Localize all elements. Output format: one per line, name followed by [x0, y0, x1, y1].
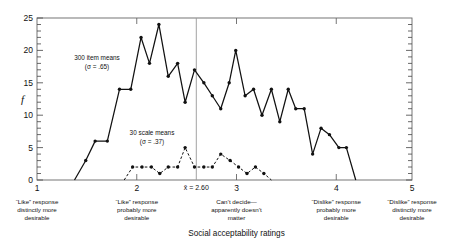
data-point — [84, 159, 87, 162]
series2-annotation-line1: 30 scale means — [130, 129, 175, 136]
series1-annotation-line2: (σ = .65) — [85, 63, 109, 71]
y-axis-label: f — [21, 93, 26, 105]
data-point — [227, 81, 230, 84]
data-point — [167, 165, 170, 168]
data-point — [158, 172, 161, 175]
data-point — [219, 152, 222, 155]
data-point — [139, 36, 142, 39]
cat-label-3-line3: matter — [228, 214, 246, 221]
data-point — [176, 165, 179, 168]
series2-annotation-line2: (σ = .37) — [140, 138, 164, 146]
cat-label-3-line1: Can’t decide— — [216, 198, 257, 205]
cat-label-1-line2: distinctly more — [17, 206, 57, 213]
data-point — [260, 114, 263, 117]
ytick-label-15: 15 — [24, 78, 34, 88]
data-point — [193, 68, 196, 71]
data-point — [150, 165, 153, 168]
cat-label-1-line3: desirable — [24, 214, 50, 221]
data-point — [302, 107, 305, 110]
data-point — [262, 172, 265, 175]
data-point — [211, 94, 214, 97]
data-point — [228, 159, 231, 162]
cat-label-1-line1: “Like” response — [16, 198, 59, 205]
data-point — [319, 126, 322, 129]
data-point — [131, 165, 134, 168]
data-point — [243, 94, 246, 97]
data-point — [234, 49, 237, 52]
cat-label-2-line3: desirable — [124, 214, 150, 221]
xtick-label-5: 5 — [410, 183, 415, 193]
cat-label-2-line1: “Like” response — [115, 198, 158, 205]
cat-label-2-line2: probably more — [117, 206, 157, 213]
cat-label-4-line1: “Dislike” response — [311, 198, 361, 205]
data-point — [270, 88, 273, 91]
xtick-label-3: 3 — [234, 183, 239, 193]
x-axis-title: Social acceptability ratings — [188, 229, 284, 238]
xtick-label-2: 2 — [134, 183, 139, 193]
ytick-label-20: 20 — [24, 45, 34, 55]
data-point — [106, 139, 109, 142]
ytick-label-25: 25 — [24, 13, 34, 23]
cat-label-3-line2: apparently doesn’t — [211, 206, 262, 213]
cat-label-5-line2: distinctly more — [392, 206, 432, 213]
ytick-label-10: 10 — [24, 110, 34, 120]
ytick-label-0: 0 — [28, 175, 33, 185]
data-point — [254, 165, 257, 168]
data-point — [118, 88, 121, 91]
chart-figure: 0 5 10 15 20 25 f 1 2 3 4 5 x̄ = 2.60 30… — [0, 0, 469, 240]
series1-annotation-line1: 300 item means — [74, 54, 119, 61]
data-point — [202, 165, 205, 168]
data-point — [219, 107, 222, 110]
x-category-labels: “Like” response distinctly more desirabl… — [16, 198, 438, 221]
data-point — [93, 139, 96, 142]
cat-label-4-line2: probably more — [316, 206, 356, 213]
data-point — [148, 62, 151, 65]
data-point — [287, 88, 290, 91]
data-point — [167, 75, 170, 78]
cat-label-5-line1: “Dislike” response — [387, 198, 437, 205]
data-point — [157, 23, 160, 26]
data-point — [176, 62, 179, 65]
cat-label-4-line3: desirable — [324, 214, 350, 221]
data-point — [211, 165, 214, 168]
data-point — [193, 165, 196, 168]
data-point — [183, 101, 186, 104]
ytick-label-5: 5 — [28, 143, 33, 153]
data-point — [202, 81, 205, 84]
data-point — [311, 152, 314, 155]
data-point — [245, 172, 248, 175]
mean-marker-label: x̄ = 2.60 — [184, 184, 209, 191]
xtick-label-1: 1 — [35, 183, 40, 193]
xtick-label-4: 4 — [334, 183, 339, 193]
data-point — [252, 88, 255, 91]
data-point — [294, 107, 297, 110]
data-point — [337, 146, 340, 149]
data-point — [278, 120, 281, 123]
data-point — [237, 165, 240, 168]
cat-label-5-line3: desirable — [399, 214, 425, 221]
data-point — [328, 133, 331, 136]
data-point — [129, 88, 132, 91]
data-point — [140, 165, 143, 168]
data-point — [345, 146, 348, 149]
data-point — [183, 146, 186, 149]
